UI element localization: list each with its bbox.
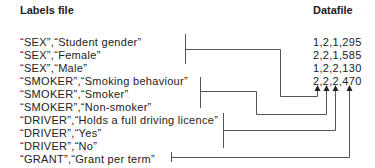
arrow-up-icon <box>333 85 339 91</box>
arrow-up-icon <box>324 85 330 91</box>
connector-lines <box>0 0 375 168</box>
arrow-up-icon <box>347 85 353 91</box>
grant-connector <box>172 91 350 162</box>
driver-connector <box>224 91 336 148</box>
smoker-connector <box>201 77 327 115</box>
sex-connector <box>186 34 318 97</box>
arrow-up-icon <box>315 85 321 91</box>
